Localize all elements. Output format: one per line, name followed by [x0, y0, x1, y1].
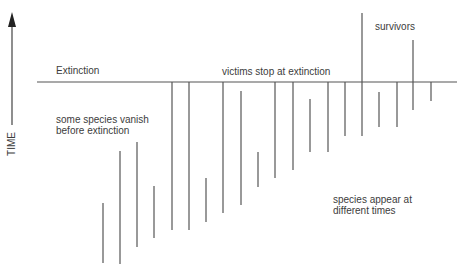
appear-annotation: species appear at different times: [333, 195, 412, 216]
extinction-diagram: TIME Extinction victims stop at extincti…: [0, 0, 463, 270]
extinction-label: Extinction: [56, 66, 99, 76]
victims-stop-annotation: victims stop at extinction: [222, 67, 330, 77]
arrow-up-icon: [8, 12, 16, 27]
vanish-annotation: some species vanish before extinction: [56, 115, 149, 136]
time-axis: [8, 12, 16, 125]
survivors-annotation: survivors: [375, 22, 415, 32]
time-axis-label: TIME: [7, 130, 17, 158]
species-ranges: [103, 13, 431, 264]
